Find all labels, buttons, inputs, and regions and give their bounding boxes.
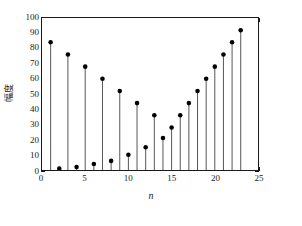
y-axis-tick-label: 40 bbox=[17, 105, 39, 114]
y-axis-tick-label: 100 bbox=[17, 13, 39, 22]
y-axis-tick-mark bbox=[41, 171, 45, 172]
stem-marker bbox=[100, 77, 105, 82]
y-axis-tick-label: 50 bbox=[17, 90, 39, 99]
stem-marker bbox=[109, 159, 114, 164]
x-axis-tick-label: 20 bbox=[205, 174, 225, 183]
x-axis-tick-label: 0 bbox=[31, 174, 51, 183]
y-axis-tick-label: 70 bbox=[17, 59, 39, 68]
x-axis-title: n bbox=[0, 190, 302, 201]
plot-area bbox=[41, 17, 259, 171]
stem-marker bbox=[83, 64, 88, 69]
stem-marker bbox=[66, 52, 71, 57]
stem-plot-figure: 0102030405060708090100 0510152025 幅度 n bbox=[0, 0, 302, 226]
stem-marker bbox=[230, 40, 235, 45]
stem-marker bbox=[48, 40, 53, 45]
stem-marker bbox=[204, 77, 209, 82]
y-axis-tick-label: 10 bbox=[17, 151, 39, 160]
x-axis-tick-mark bbox=[259, 167, 260, 171]
y-axis-tick-label: 90 bbox=[17, 28, 39, 37]
stem-marker bbox=[92, 162, 97, 167]
y-axis-tick-label: 20 bbox=[17, 136, 39, 145]
stem-marker bbox=[195, 89, 200, 94]
stem-marker bbox=[169, 125, 174, 130]
x-axis-tick-label: 5 bbox=[75, 174, 95, 183]
y-axis-tick-label: 30 bbox=[17, 120, 39, 129]
stem-series-canvas bbox=[42, 18, 258, 170]
stem-marker bbox=[161, 136, 166, 141]
stem-marker bbox=[126, 153, 131, 158]
stem-marker bbox=[213, 64, 218, 69]
stem-marker bbox=[178, 113, 183, 118]
stem-marker bbox=[187, 101, 192, 106]
x-axis-tick-mark-top bbox=[259, 18, 260, 22]
stem-marker bbox=[135, 101, 140, 106]
y-axis-tick-label: 80 bbox=[17, 43, 39, 52]
stem-marker bbox=[238, 28, 243, 33]
stem-marker bbox=[57, 166, 62, 170]
y-axis-title: 幅度 bbox=[2, 71, 15, 115]
x-axis-tick-label: 25 bbox=[249, 174, 269, 183]
y-axis-tick-mark-right bbox=[255, 171, 259, 172]
x-axis-tick-label: 15 bbox=[162, 174, 182, 183]
stem-marker bbox=[221, 52, 226, 57]
stem-marker bbox=[74, 165, 79, 170]
stem-marker bbox=[143, 145, 148, 150]
stem-marker bbox=[117, 89, 122, 94]
x-axis-tick-label: 10 bbox=[118, 174, 138, 183]
stem-marker bbox=[152, 113, 157, 118]
y-axis-tick-label: 60 bbox=[17, 74, 39, 83]
